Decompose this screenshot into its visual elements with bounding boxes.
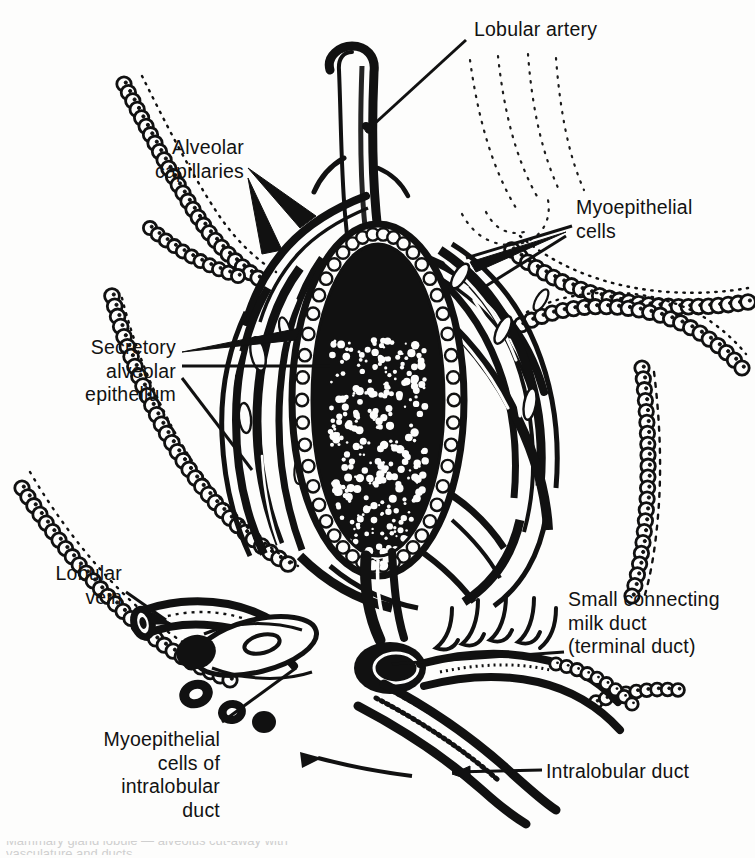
label-lobular-vein: Lobular vein <box>4 562 122 609</box>
label-small-connecting-milk-duct: Small connecting milk duct (terminal duc… <box>568 588 720 659</box>
label-lobular-artery: Lobular artery <box>474 18 597 42</box>
caption-fragment-text: Mammary gland lobule — alveolus cut-away… <box>6 841 306 855</box>
label-myoepithelial-cells-of-intralobular-duct: Myoepithelial cells of intralobular duct <box>24 728 220 822</box>
central-alveolus-cutaway <box>292 224 464 576</box>
label-secretory-alveolar-epithelium: Secretory alveolar epithelium <box>10 336 176 407</box>
label-alveolar-capillaries: Alveolar capillaries <box>12 136 244 183</box>
cropped-caption-fragment: Mammary gland lobule — alveolus cut-away… <box>6 841 306 855</box>
label-myoepithelial-cells: Myoepithelial cells <box>576 196 692 243</box>
label-intralobular-duct: Intralobular duct <box>546 760 689 784</box>
